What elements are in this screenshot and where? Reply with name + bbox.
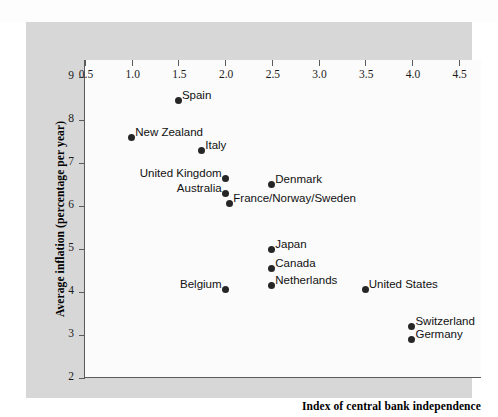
data-point-label: Australia: [177, 182, 222, 194]
y-tick-label: 2: [68, 370, 74, 382]
data-point-label: Belgium: [180, 278, 222, 290]
data-point-label: Spain: [182, 89, 211, 101]
data-point[interactable]: Canada: [268, 265, 275, 272]
data-point-label: Switzerland: [415, 315, 474, 327]
scan-artifact-strip: [0, 0, 498, 22]
y-tick: 7: [79, 163, 85, 164]
data-point[interactable]: France/Norway/Sweden: [226, 200, 233, 207]
data-point[interactable]: Belgium: [222, 286, 229, 293]
data-point-label: United States: [369, 278, 438, 290]
data-point-label: Japan: [275, 238, 306, 250]
y-tick: 5: [79, 249, 85, 250]
data-point-label: Netherlands: [275, 274, 337, 286]
data-point-label: Italy: [205, 139, 226, 151]
x-tick-label: 3.5: [352, 68, 380, 80]
x-tick: 1.5: [178, 60, 179, 66]
x-tick: 4.0: [412, 60, 413, 66]
y-tick-label: 4: [68, 284, 74, 296]
x-tick-label: 2.5: [259, 68, 287, 80]
y-tick-label: 6: [68, 198, 74, 210]
data-point[interactable]: United Kingdom: [222, 175, 229, 182]
chart-panel: Average inflation (percentage per year) …: [26, 22, 472, 398]
x-tick-label: 0.5: [72, 68, 100, 80]
y-tick-label: 5: [68, 241, 74, 253]
data-point[interactable]: United States: [362, 286, 369, 293]
x-tick: 1.0: [132, 60, 133, 66]
x-tick-label: 1.0: [119, 68, 147, 80]
y-tick-label: 7: [68, 155, 74, 167]
data-point-label: Canada: [275, 257, 315, 269]
x-tick-label: 1.5: [165, 68, 193, 80]
y-tick: 2: [79, 378, 85, 379]
data-point[interactable]: Denmark: [268, 181, 275, 188]
data-point[interactable]: Spain: [175, 97, 182, 104]
x-tick: 4.5: [459, 60, 460, 66]
data-point-label: Denmark: [275, 173, 322, 185]
y-tick-label: 3: [68, 327, 74, 339]
data-point[interactable]: Japan: [268, 246, 275, 253]
data-point[interactable]: New Zealand: [128, 134, 135, 141]
x-tick: 2.5: [272, 60, 273, 66]
data-point[interactable]: Netherlands: [268, 282, 275, 289]
x-tick-label: 3.0: [306, 68, 334, 80]
plot-area: 23456789 0.51.01.52.02.53.03.54.04.5 Spa…: [84, 60, 481, 378]
data-point-label: France/Norway/Sweden: [233, 192, 356, 204]
x-tick-label: 4.0: [399, 68, 427, 80]
x-tick: 3.5: [365, 60, 366, 66]
data-point-label: United Kingdom: [140, 167, 222, 179]
y-tick: 3: [79, 335, 85, 336]
data-point[interactable]: Switzerland: [408, 323, 415, 330]
x-tick: 2.0: [225, 60, 226, 66]
data-point[interactable]: Italy: [198, 147, 205, 154]
data-point[interactable]: Germany: [408, 336, 415, 343]
data-point-label: New Zealand: [135, 126, 203, 138]
x-tick: 0.5: [85, 60, 86, 66]
y-tick: 8: [79, 120, 85, 121]
x-axis-title: Index of central bank independence: [84, 400, 481, 412]
x-tick: 3.0: [319, 60, 320, 66]
data-point[interactable]: Australia: [222, 190, 229, 197]
x-tick-label: 4.5: [446, 68, 474, 80]
y-tick: 4: [79, 292, 85, 293]
x-tick-label: 2.0: [212, 68, 240, 80]
data-point-label: Germany: [415, 328, 462, 340]
y-tick-label: 8: [68, 112, 74, 124]
y-tick: 6: [79, 206, 85, 207]
